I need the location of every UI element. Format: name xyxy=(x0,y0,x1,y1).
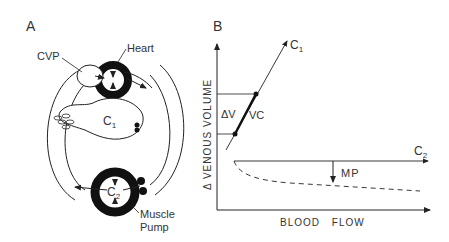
heart-leader-line xyxy=(118,49,126,62)
figure: A C1 xyxy=(0,0,449,242)
muscle-pump: C2 xyxy=(75,172,147,212)
vc-label: VC xyxy=(249,109,264,121)
heart-label: Heart xyxy=(127,42,154,54)
x-axis-label: BLOOD FLOW xyxy=(280,217,365,228)
inner-vessel-right xyxy=(150,75,170,185)
y-axis-label: Δ VENOUS VOLUME xyxy=(202,79,213,190)
cvp-chamber xyxy=(77,65,103,87)
pump-label: Pump xyxy=(140,221,169,233)
panel-a-label: A xyxy=(26,18,36,34)
cvp-leader-line xyxy=(62,58,82,72)
inner-vessel-left xyxy=(65,78,92,190)
cvp-label: CVP xyxy=(37,50,60,62)
mp-label: MP xyxy=(341,167,360,179)
panel-b: B Δ VENOUS VOLUME BLOOD FLOW ΔV VC C1 C2… xyxy=(202,18,430,228)
muscle-label: Muscle xyxy=(140,208,175,220)
c2-curve-label: C2 xyxy=(414,144,428,160)
c1-compartment: C1 xyxy=(54,98,143,139)
c1-curve-label: C1 xyxy=(290,38,304,54)
delta-v-label: ΔV xyxy=(221,108,236,120)
mp-dashed-curve xyxy=(234,161,420,191)
panel-b-label: B xyxy=(213,18,222,34)
panel-a: A C1 xyxy=(26,18,184,233)
